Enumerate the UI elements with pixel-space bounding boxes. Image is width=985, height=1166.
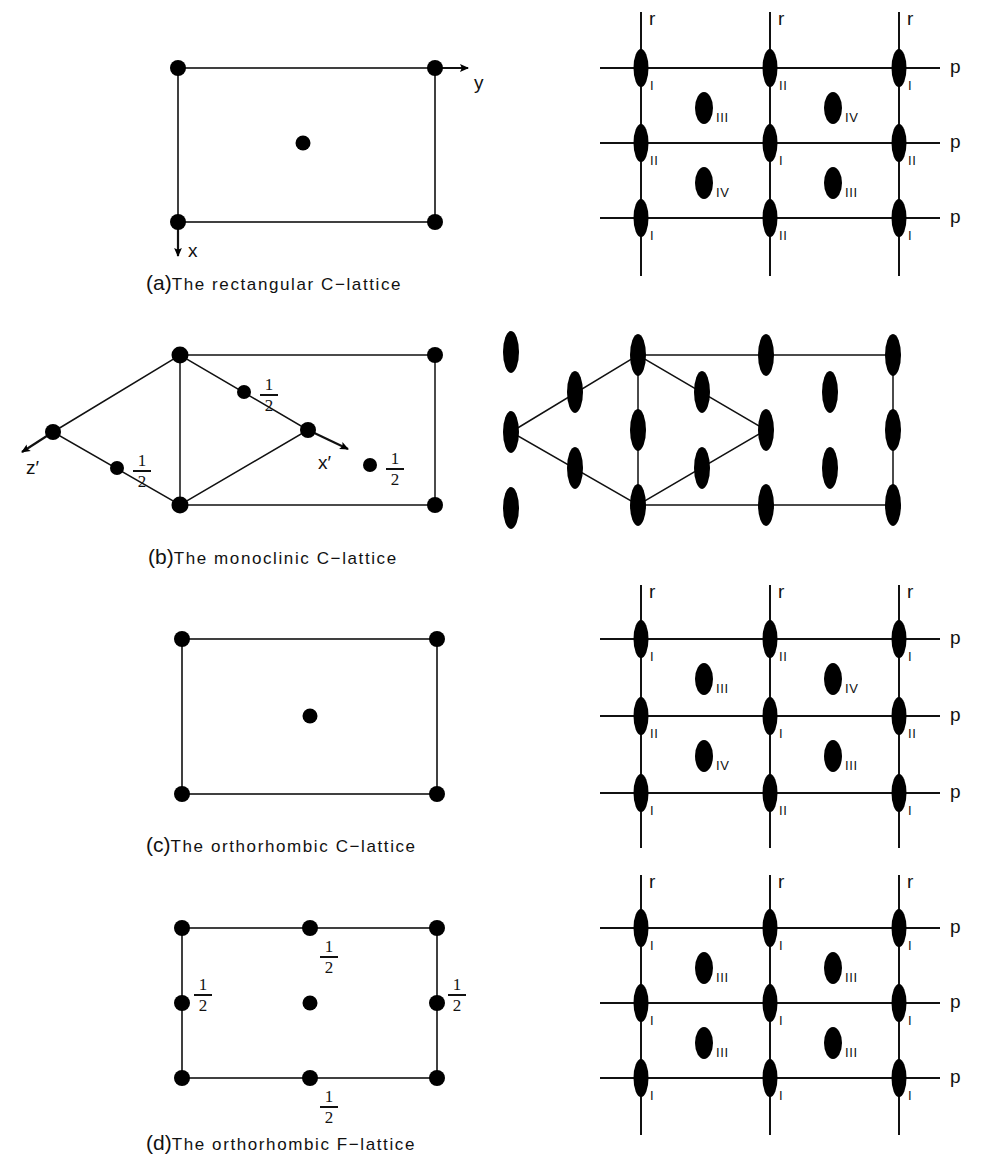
node-label: I (908, 938, 912, 953)
caption-d-index: (d) (146, 1131, 172, 1154)
line-label-p: p (950, 991, 961, 1013)
lattice-figure: y x (a)The rectangular C−lattice r r r p… (0, 0, 985, 1166)
caption-d-text: The orthorhombic F−lattice (172, 1135, 416, 1154)
node-label: I (650, 938, 654, 953)
line-label-r: r (778, 8, 784, 30)
axis-label-z-prime: z′ (26, 457, 39, 479)
fraction-denominator: 2 (192, 996, 214, 1014)
node-label: I (650, 649, 654, 664)
fraction-denominator: 2 (446, 996, 468, 1014)
interior-label: III (845, 758, 858, 773)
fraction-numerator: 1 (384, 450, 406, 468)
panel-a-left-diagram (170, 60, 468, 256)
node-label: I (779, 938, 783, 953)
fraction-numerator: 1 (131, 452, 153, 470)
fraction-numerator: 1 (446, 976, 468, 994)
height-label-half: 1 2 (258, 376, 280, 414)
caption-c-text: The orthorhombic C−lattice (171, 837, 417, 856)
node-label: I (650, 228, 654, 243)
node-label: I (650, 1088, 654, 1103)
fraction-numerator: 1 (258, 376, 280, 394)
caption-a-index: (a) (146, 271, 172, 294)
line-label-p: p (950, 56, 961, 78)
node-label: II (779, 78, 787, 93)
node-label: I (908, 1013, 912, 1028)
interior-label: III (845, 185, 858, 200)
panel-b-left-diagram (22, 347, 443, 514)
node-label: I (779, 153, 783, 168)
caption-a-text: The rectangular C−lattice (172, 275, 402, 294)
line-label-p: p (950, 704, 961, 726)
node-label: I (779, 1088, 783, 1103)
line-label-p: p (950, 131, 961, 153)
axis-label-y: y (474, 72, 484, 94)
node-label: I (650, 1013, 654, 1028)
caption-d: (d)The orthorhombic F−lattice (146, 1131, 416, 1155)
caption-a: (a)The rectangular C−lattice (146, 271, 402, 295)
line-label-r: r (778, 581, 784, 603)
node-label: I (779, 1013, 783, 1028)
node-label: I (908, 78, 912, 93)
height-label-half: 1 2 (318, 1088, 340, 1126)
interior-label: IV (716, 758, 729, 773)
interior-label: III (845, 1045, 858, 1060)
node-label: I (650, 803, 654, 818)
height-label-half: 1 2 (318, 938, 340, 976)
height-label-half: 1 2 (446, 976, 468, 1014)
line-label-r: r (907, 871, 913, 893)
node-label: I (908, 228, 912, 243)
interior-label: III (716, 1045, 729, 1060)
fraction-denominator: 2 (384, 470, 406, 488)
line-label-r: r (649, 8, 655, 30)
line-label-r: r (649, 871, 655, 893)
figure-canvas (0, 0, 985, 1166)
node-label: II (779, 803, 787, 818)
node-label: II (650, 726, 658, 741)
caption-c: (c)The orthorhombic C−lattice (146, 833, 417, 857)
axis-label-x-prime: x′ (318, 452, 331, 474)
line-label-r: r (907, 581, 913, 603)
node-label: II (779, 228, 787, 243)
line-label-r: r (907, 8, 913, 30)
panel-c-left-diagram (174, 631, 445, 802)
interior-label: III (716, 681, 729, 696)
caption-c-index: (c) (146, 833, 171, 856)
axis-label-x: x (188, 240, 198, 262)
fraction-denominator: 2 (258, 396, 280, 414)
interior-label: III (716, 970, 729, 985)
interior-label: IV (845, 681, 858, 696)
fraction-numerator: 1 (318, 938, 340, 956)
fraction-denominator: 2 (318, 958, 340, 976)
node-label: II (908, 153, 916, 168)
line-label-p: p (950, 781, 961, 803)
interior-label: III (716, 110, 729, 125)
caption-b: (b)The monoclinic C−lattice (148, 545, 398, 569)
node-label: I (908, 803, 912, 818)
line-label-r: r (778, 871, 784, 893)
height-label-half: 1 2 (131, 452, 153, 490)
height-label-half: 1 2 (192, 976, 214, 1014)
line-label-p: p (950, 916, 961, 938)
interior-label: III (845, 970, 858, 985)
node-label: I (779, 726, 783, 741)
node-label: II (779, 649, 787, 664)
fraction-numerator: 1 (192, 976, 214, 994)
line-label-r: r (649, 581, 655, 603)
node-label: I (908, 649, 912, 664)
node-label: II (650, 153, 658, 168)
line-label-p: p (950, 1066, 961, 1088)
node-label: II (908, 726, 916, 741)
caption-b-text: The monoclinic C−lattice (174, 549, 398, 568)
caption-b-index: (b) (148, 545, 174, 568)
height-label-half: 1 2 (384, 450, 406, 488)
fraction-denominator: 2 (318, 1108, 340, 1126)
node-label: I (650, 78, 654, 93)
interior-label: IV (845, 110, 858, 125)
line-label-p: p (950, 206, 961, 228)
fraction-numerator: 1 (318, 1088, 340, 1106)
panel-d-left-diagram (174, 920, 445, 1086)
fraction-denominator: 2 (131, 472, 153, 490)
line-label-p: p (950, 627, 961, 649)
node-label: I (908, 1088, 912, 1103)
interior-label: IV (716, 185, 729, 200)
